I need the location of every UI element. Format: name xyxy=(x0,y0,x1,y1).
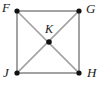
vertex-label-G: G xyxy=(86,2,95,15)
vertex-label-J: J xyxy=(3,66,9,79)
vertex-label-H: H xyxy=(87,66,96,79)
geometry-figure: F G H J K xyxy=(0,0,103,94)
point-G xyxy=(76,8,81,13)
point-J xyxy=(14,70,19,75)
vertex-label-F: F xyxy=(2,1,10,14)
point-K xyxy=(46,39,52,45)
vertex-label-K: K xyxy=(45,23,53,36)
point-F xyxy=(14,8,19,13)
point-H xyxy=(76,70,81,75)
